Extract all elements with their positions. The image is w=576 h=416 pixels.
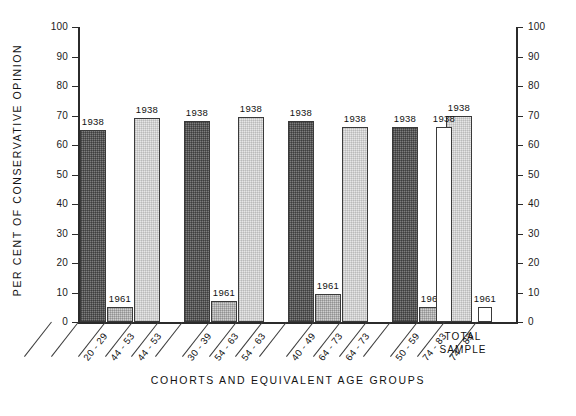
bar <box>80 130 106 322</box>
y-tick-label-right: 10 <box>528 288 560 298</box>
bar-value-label: 1938 <box>232 104 270 114</box>
total-sample-bar <box>436 127 452 322</box>
y-tick-right <box>517 86 523 87</box>
bar-value-label: 1938 <box>282 108 320 118</box>
total-sample-caption: TOTAL SAMPLE <box>418 330 508 356</box>
bar-value-label: 1938 <box>128 105 166 115</box>
bar <box>315 294 341 322</box>
y-tick-label-right: 70 <box>528 111 560 121</box>
y-tick-label-left: 60 <box>38 140 68 150</box>
total-sample-bar <box>478 307 492 322</box>
bar <box>288 121 314 322</box>
y-tick-right <box>517 263 523 264</box>
bar <box>238 117 264 322</box>
plot-area: 1938196119381938196119381938196119381938… <box>78 27 502 322</box>
y-tick-right <box>517 175 523 176</box>
bar <box>392 127 418 322</box>
y-tick-label-right: 60 <box>528 140 560 150</box>
y-tick-right <box>517 293 523 294</box>
category-tick-slash <box>51 322 79 357</box>
y-tick-right <box>517 57 523 58</box>
y-tick-label-right: 20 <box>528 258 560 268</box>
bar-value-label: 1938 <box>336 114 374 124</box>
y-tick-right <box>517 204 523 205</box>
bar-value-label: 1938 <box>386 114 424 124</box>
y-tick-label-left: 50 <box>38 170 68 180</box>
y-tick-right <box>517 145 523 146</box>
y-tick-label-left: 80 <box>38 81 68 91</box>
y-tick-right <box>517 234 523 235</box>
bar <box>342 127 368 322</box>
y-tick-right <box>517 27 523 28</box>
y-tick-label-right: 50 <box>528 170 560 180</box>
y-tick-label-left: 40 <box>38 199 68 209</box>
y-tick-label-right: 40 <box>528 199 560 209</box>
y-axis-title-text: PER CENT OF CONSERVATIVE OPINION <box>11 44 23 296</box>
x-axis-category-labels: 20 - 2944 - 5344 - 5330 - 3954 - 6354 - … <box>0 322 576 378</box>
bar-value-label: 1938 <box>440 103 478 113</box>
y-tick-label-right: 100 <box>528 22 560 32</box>
total-sample-bar-label: 1961 <box>470 294 500 304</box>
y-tick-label-left: 70 <box>38 111 68 121</box>
y-tick-right <box>517 116 523 117</box>
y-tick-label-left: 100 <box>38 22 68 32</box>
x-axis-title: COHORTS AND EQUIVALENT AGE GROUPS <box>0 374 576 386</box>
y-tick-label-right: 30 <box>528 229 560 239</box>
bar-value-label: 1938 <box>178 108 216 118</box>
y-axis-title: PER CENT OF CONSERVATIVE OPINION <box>6 0 28 340</box>
category-tick-slash <box>24 322 52 357</box>
bar <box>107 307 133 322</box>
total-sample-bar-label: 1938 <box>428 114 460 124</box>
bar <box>211 301 237 322</box>
y-tick-label-left: 10 <box>38 288 68 298</box>
chart-figure: PER CENT OF CONSERVATIVE OPINION 1009080… <box>0 0 576 416</box>
y-tick-label-left: 30 <box>38 229 68 239</box>
bar <box>134 118 160 322</box>
y-tick-label-left: 90 <box>38 52 68 62</box>
y-tick-label-right: 90 <box>528 52 560 62</box>
y-tick-label-right: 80 <box>528 81 560 91</box>
y-tick-label-left: 20 <box>38 258 68 268</box>
bar-value-label: 1938 <box>74 117 112 127</box>
